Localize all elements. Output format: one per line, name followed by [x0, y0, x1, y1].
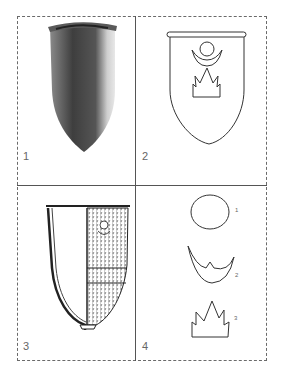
motif-label-2: 2: [235, 272, 238, 278]
motif-details: [0, 0, 283, 378]
circle-icon: [191, 195, 229, 229]
panel-label-4: 4: [142, 340, 148, 352]
motif-label-3: 3: [234, 315, 237, 321]
flame-icon: [192, 301, 229, 337]
crescent-icon: [188, 246, 234, 283]
motif-label-1: 1: [235, 207, 238, 213]
